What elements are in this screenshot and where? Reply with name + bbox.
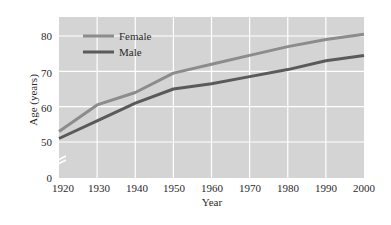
x-axis-ticks: 1920 1930 1940 1950 1960 1970 1980 1990 … — [52, 182, 376, 194]
x-tick-1980: 1980 — [277, 182, 300, 194]
x-tick-1950: 1950 — [163, 182, 186, 194]
legend-label-male: Male — [119, 46, 142, 58]
y-axis-label: Age (years) — [27, 74, 40, 126]
y-axis-ticks: 80 70 60 50 0 — [41, 30, 53, 184]
y-tick-60: 60 — [41, 102, 53, 114]
y-tick-80: 80 — [41, 30, 53, 42]
x-tick-1970: 1970 — [239, 182, 262, 194]
life-expectancy-chart: Female Male 80 70 60 50 0 1920 1930 1940… — [0, 0, 391, 225]
x-tick-1960: 1960 — [201, 182, 224, 194]
x-tick-1920: 1920 — [52, 182, 75, 194]
y-tick-70: 70 — [41, 67, 53, 79]
x-tick-1930: 1930 — [88, 182, 111, 194]
x-tick-1940: 1940 — [126, 182, 149, 194]
y-tick-50: 50 — [41, 136, 53, 148]
x-axis-label: Year — [202, 196, 223, 208]
x-tick-2000: 2000 — [353, 182, 376, 194]
x-tick-1990: 1990 — [315, 182, 338, 194]
legend-label-female: Female — [119, 30, 151, 42]
